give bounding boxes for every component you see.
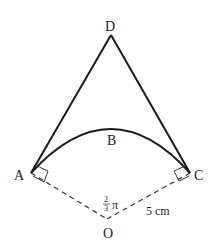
- radius-OA: [31, 173, 107, 219]
- label-A: A: [14, 168, 25, 183]
- radius-label: 5 cm: [146, 204, 170, 218]
- label-O: O: [103, 226, 113, 241]
- sector-tangent-diagram: D B A C O 2 3 π 5 cm: [0, 0, 214, 246]
- angle-denominator: 3: [104, 204, 108, 213]
- angle-numerator: 2: [104, 195, 108, 204]
- label-B: B: [107, 133, 116, 148]
- label-C: C: [194, 168, 203, 183]
- label-D: D: [105, 19, 115, 34]
- line-CD: [111, 35, 190, 173]
- angle-pi: π: [112, 198, 118, 212]
- line-AD: [31, 35, 111, 173]
